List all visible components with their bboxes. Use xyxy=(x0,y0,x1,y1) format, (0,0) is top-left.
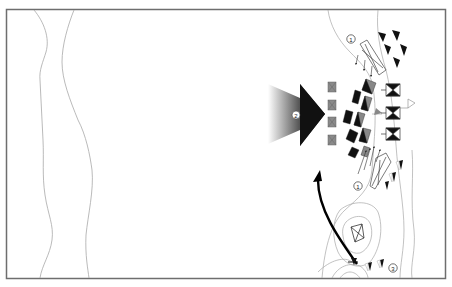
marker-3: 3 xyxy=(389,264,397,272)
tactical-map: 2 1 xyxy=(0,0,452,287)
map-frame xyxy=(7,10,446,279)
marker-1-bottom: 1 xyxy=(354,182,362,190)
marker-1-top: 1 xyxy=(347,35,355,43)
marker-2: 2 xyxy=(292,111,300,119)
